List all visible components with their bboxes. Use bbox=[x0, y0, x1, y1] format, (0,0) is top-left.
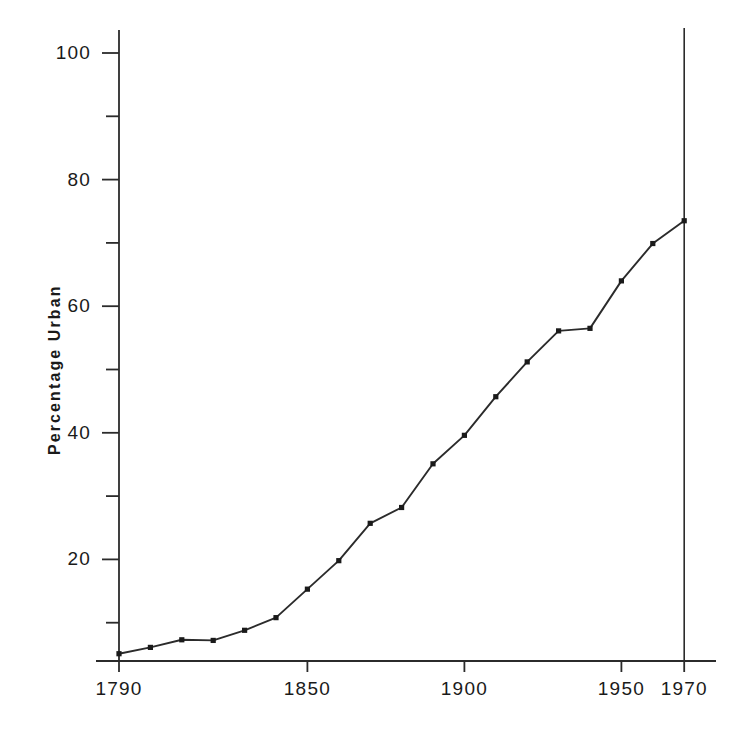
data-point-marker bbox=[242, 628, 247, 633]
urban-percentage-line bbox=[119, 221, 684, 654]
data-point-marker bbox=[273, 615, 278, 620]
data-point-marker bbox=[399, 505, 404, 510]
data-point-marker bbox=[430, 461, 435, 466]
data-point-marker bbox=[305, 587, 310, 592]
data-point-marker bbox=[682, 218, 687, 223]
y-axis-tick-label: 100 bbox=[0, 42, 91, 64]
data-point-marker bbox=[116, 651, 121, 656]
data-point-marker bbox=[493, 394, 498, 399]
chart-axes bbox=[96, 30, 716, 661]
line-chart-canvas bbox=[0, 0, 752, 732]
data-point-marker bbox=[368, 521, 373, 526]
x-axis-tick-label: 1950 bbox=[598, 678, 645, 700]
data-point-marker bbox=[462, 433, 467, 438]
data-point-marker bbox=[336, 558, 341, 563]
y-axis-tick-label: 80 bbox=[0, 169, 91, 191]
x-axis-tick-label: 1850 bbox=[284, 678, 331, 700]
x-axis-tick-label: 1790 bbox=[95, 678, 142, 700]
data-point-markers bbox=[116, 218, 686, 656]
y-axis-ticks bbox=[102, 53, 119, 623]
x-axis-tick-label: 1970 bbox=[661, 678, 708, 700]
data-point-marker bbox=[179, 637, 184, 642]
y-axis-title: Percentage Urban bbox=[46, 284, 64, 455]
chart-figure: 2040608010017901850190019501970 Percenta… bbox=[0, 0, 752, 732]
data-point-marker bbox=[556, 328, 561, 333]
data-point-marker bbox=[650, 241, 655, 246]
data-point-marker bbox=[587, 326, 592, 331]
data-point-marker bbox=[148, 645, 153, 650]
data-point-marker bbox=[211, 638, 216, 643]
data-point-marker bbox=[525, 359, 530, 364]
y-axis-tick-label: 20 bbox=[0, 548, 91, 570]
x-axis-ticks bbox=[119, 661, 684, 672]
x-axis-tick-label: 1900 bbox=[441, 678, 488, 700]
data-point-marker bbox=[619, 278, 624, 283]
